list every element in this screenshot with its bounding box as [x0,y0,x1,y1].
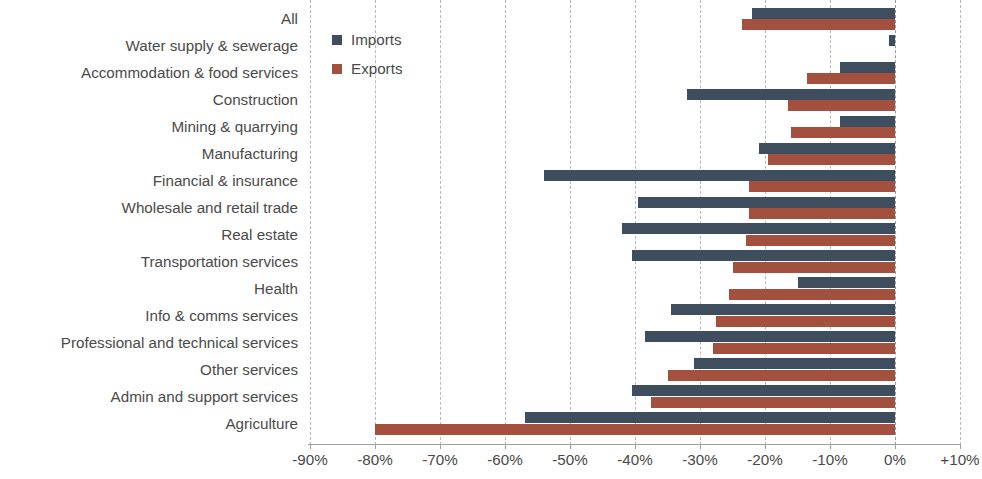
category-label: Mining & quarrying [171,120,298,135]
axis-tick-0 [895,445,896,449]
legend-label: Imports [351,32,402,47]
bar-exports [375,424,895,435]
category-label: Admin and support services [111,389,298,404]
x-tick-label: -90% [292,452,327,467]
x-tick-label: 0% [884,452,906,467]
bar-imports [840,116,895,127]
gridline--90 [310,0,311,445]
category-label: Info & comms services [145,308,298,323]
axis-tick--70 [440,445,441,449]
bar-exports [729,289,895,300]
bar-imports [632,385,895,396]
category-label: Agriculture [225,416,298,431]
bar-imports [525,412,896,423]
axis-tick--80 [375,445,376,449]
bar-imports [694,358,896,369]
category-label: Water supply & sewerage [126,39,298,54]
x-tick-label: -40% [617,452,652,467]
bar-exports [791,127,895,138]
category-label: Construction [213,93,298,108]
bar-exports [807,73,895,84]
x-tick-label: -30% [682,452,717,467]
bar-exports [742,19,895,30]
bar-exports [749,181,895,192]
x-tick-label: -60% [487,452,522,467]
plot-area [310,0,960,445]
category-label: Accommodation & food services [81,66,298,81]
legend-swatch-exports-icon [332,64,342,74]
axis-tick--10 [830,445,831,449]
x-tick-label: -70% [422,452,457,467]
bar-imports [687,89,895,100]
x-tick-label: -80% [357,452,392,467]
bar-imports [752,8,895,19]
legend-entry-exports[interactable]: Exports [332,61,403,76]
bar-exports [746,235,896,246]
bar-imports [645,331,895,342]
axis-tick--90 [310,445,311,449]
bar-exports [716,316,895,327]
category-axis: AllWater supply & sewerageAccommodation … [0,0,304,445]
legend-swatch-imports-icon [332,35,342,45]
axis-tick--40 [635,445,636,449]
axis-tick--60 [505,445,506,449]
category-label: Professional and technical services [61,335,298,350]
bar-exports [668,370,896,381]
gridline--50 [570,0,571,445]
gridline--70 [440,0,441,445]
bar-imports [840,62,895,73]
bar-imports [889,35,896,46]
bar-exports [713,343,895,354]
axis-tick--20 [765,445,766,449]
bar-imports [638,197,895,208]
x-tick-label: -50% [552,452,587,467]
bar-chart: AllWater supply & sewerageAccommodation … [0,0,982,479]
x-tick-label: -10% [812,452,847,467]
bar-exports [749,208,895,219]
bar-imports [544,170,895,181]
bar-exports [733,262,896,273]
bar-imports [671,304,895,315]
gridline-10 [960,0,961,445]
axis-tick--50 [570,445,571,449]
axis-tick--30 [700,445,701,449]
x-tick-label: +10% [940,452,979,467]
bar-exports [768,154,895,165]
bar-exports [788,100,895,111]
bar-imports [759,143,896,154]
category-label: All [281,12,298,27]
bar-exports [651,397,895,408]
gridline-0 [895,0,896,445]
x-tick-label: -20% [747,452,782,467]
category-label: Manufacturing [202,147,298,162]
bar-imports [622,223,895,234]
gridline--60 [505,0,506,445]
axis-tick-10 [960,445,961,449]
bar-imports [798,277,896,288]
category-label: Health [254,281,298,296]
category-label: Financial & insurance [153,173,298,188]
category-label: Wholesale and retail trade [122,200,298,215]
legend-entry-imports[interactable]: Imports [332,32,402,47]
legend-label: Exports [351,61,403,76]
x-axis-tick-labels: -90%-80%-70%-60%-50%-40%-30%-20%-10%0%+1… [310,452,960,476]
category-label: Real estate [221,227,298,242]
category-label: Transportation services [141,254,298,269]
category-label: Other services [200,362,298,377]
bar-imports [632,250,895,261]
